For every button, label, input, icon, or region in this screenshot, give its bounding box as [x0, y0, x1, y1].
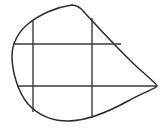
- blob-outline-path: [12, 5, 157, 121]
- blob-partition-figure: [0, 0, 165, 130]
- figure-canvas: [0, 0, 165, 130]
